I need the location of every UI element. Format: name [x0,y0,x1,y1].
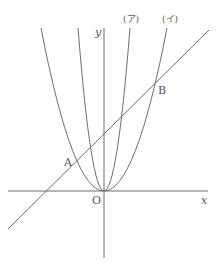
point-b-label: B [158,84,166,97]
coordinate-diagram: y x O (ア) (イ) A B [0,0,224,266]
origin-label: O [92,194,101,207]
x-axis-label: x [201,194,208,207]
point-a-label: A [63,156,73,169]
curve-label-a: (ア) [123,14,139,24]
line-ab [8,30,209,229]
curve-label-i: (イ) [162,14,178,24]
y-axis-label: y [94,26,102,39]
